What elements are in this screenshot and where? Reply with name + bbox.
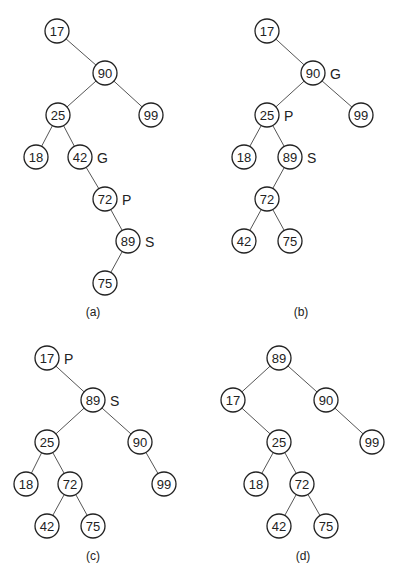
node-value: 72 — [63, 477, 77, 492]
node-role-label: S — [307, 150, 316, 166]
tree-node-25: 25 — [35, 430, 59, 454]
node-value: 17 — [40, 351, 54, 366]
tree-node-99: 99 — [139, 103, 163, 127]
tree-node-72: 72 — [255, 187, 279, 211]
node-role-label: S — [145, 234, 154, 250]
panel-caption: (c) — [86, 549, 100, 563]
tree-edge-72-42 — [53, 495, 64, 516]
tree-edge-89-72 — [273, 168, 284, 189]
tree-node-17: 17 — [255, 19, 279, 43]
node-value: 25 — [51, 108, 65, 123]
tree-node-42: 42 — [267, 514, 291, 538]
node-value: 99 — [157, 477, 171, 492]
tree-edge-25-18 — [42, 126, 53, 147]
node-value: 25 — [40, 435, 54, 450]
tree-edge-25-89 — [273, 126, 284, 147]
tree-edge-90-99 — [114, 81, 142, 107]
tree-node-89: 89S — [278, 145, 316, 169]
node-value: 42 — [73, 150, 87, 165]
panel-a: 179025991842G72P89S75(a) — [24, 19, 163, 319]
tree-edge-17-90 — [66, 39, 96, 65]
tree-node-75: 75 — [278, 229, 302, 253]
node-value: 99 — [354, 108, 368, 123]
node-value: 17 — [260, 24, 274, 39]
tree-node-18: 18 — [232, 145, 256, 169]
tree-node-42: 42 — [35, 514, 59, 538]
tree-node-18: 18 — [24, 145, 48, 169]
tree-edge-72-89 — [111, 210, 122, 231]
tree-edge-25-72 — [285, 453, 296, 474]
node-value: 17 — [50, 24, 64, 39]
tree-edge-90-25 — [67, 81, 96, 107]
tree-node-72: 72 — [290, 472, 314, 496]
tree-edge-89-90 — [288, 366, 317, 392]
tree-node-25: 25 — [46, 103, 70, 127]
tree-node-17: 17 — [45, 19, 69, 43]
node-value: 75 — [319, 519, 333, 534]
tree-edge-17-25 — [242, 408, 270, 434]
node-value: 90 — [319, 393, 333, 408]
tree-edge-89-90 — [102, 408, 131, 434]
node-value: 89 — [272, 351, 286, 366]
tree-edge-89-75 — [111, 252, 122, 273]
node-value: 90 — [306, 66, 320, 81]
tree-edge-72-42 — [250, 210, 261, 231]
node-value: 25 — [272, 435, 286, 450]
node-value: 72 — [98, 192, 112, 207]
node-role-label: P — [122, 192, 131, 208]
node-value: 89 — [86, 393, 100, 408]
node-role-label: P — [284, 108, 293, 124]
tree-edge-25-18 — [250, 126, 261, 147]
node-value: 42 — [237, 234, 251, 249]
node-value: 99 — [144, 108, 158, 123]
node-value: 75 — [283, 234, 297, 249]
node-value: 17 — [226, 393, 240, 408]
panel-b: 1790G25P991889S724275(b) — [232, 19, 373, 319]
tree-node-75: 75 — [314, 514, 338, 538]
tree-node-90: 90 — [314, 388, 338, 412]
tree-node-72: 72 — [58, 472, 82, 496]
node-value: 18 — [19, 477, 33, 492]
tree-node-42: 42G — [68, 145, 108, 169]
tree-node-99: 99 — [152, 472, 176, 496]
node-value: 18 — [237, 150, 251, 165]
tree-diagram-canvas: 179025991842G72P89S75(a) 1790G25P991889S… — [0, 0, 400, 576]
node-value: 42 — [272, 519, 286, 534]
node-value: 75 — [86, 519, 100, 534]
node-value: 72 — [295, 477, 309, 492]
tree-node-90: 90G — [301, 61, 341, 85]
node-value: 90 — [133, 435, 147, 450]
tree-edge-42-72 — [86, 167, 99, 188]
tree-edge-90-99 — [146, 452, 158, 473]
node-role-label: S — [110, 393, 119, 409]
tree-node-17: 17P — [35, 346, 73, 370]
node-value: 75 — [98, 276, 112, 291]
node-value: 18 — [249, 477, 263, 492]
tree-edge-25-72 — [53, 453, 64, 474]
node-value: 99 — [365, 435, 379, 450]
tree-node-90: 90 — [93, 61, 117, 85]
node-value: 25 — [260, 108, 274, 123]
node-role-label: G — [330, 66, 341, 82]
tree-edge-89-17 — [242, 366, 270, 392]
tree-node-89: 89 — [267, 346, 291, 370]
tree-node-90: 90 — [128, 430, 152, 454]
tree-node-17: 17 — [221, 388, 245, 412]
tree-edge-90-25 — [276, 81, 304, 107]
tree-node-75: 75 — [81, 514, 105, 538]
tree-edge-25-18 — [262, 453, 273, 474]
tree-edge-17-89 — [56, 366, 84, 392]
panel-c: 17P89S25901872994275(c) — [14, 346, 176, 563]
tree-node-42: 42 — [232, 229, 256, 253]
tree-node-89: 89S — [81, 388, 119, 412]
tree-edge-17-90 — [276, 39, 304, 65]
tree-node-99: 99 — [360, 430, 384, 454]
tree-node-89: 89S — [116, 229, 154, 253]
node-value: 89 — [121, 234, 135, 249]
tree-node-99: 99 — [349, 103, 373, 127]
node-value: 90 — [98, 66, 112, 81]
node-value: 18 — [29, 150, 43, 165]
node-value: 42 — [40, 519, 54, 534]
tree-node-72: 72P — [93, 187, 131, 211]
tree-edge-25-18 — [31, 453, 41, 474]
